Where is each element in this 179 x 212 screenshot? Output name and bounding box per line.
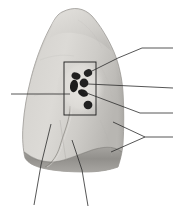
lung-anatomy-diagram xyxy=(0,0,179,212)
hilar-structure-lower xyxy=(84,101,93,109)
hilar-structure-mid-center xyxy=(80,79,89,88)
